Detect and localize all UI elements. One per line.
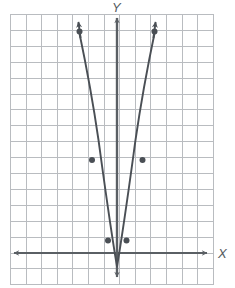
grid-horizontal-lines — [10, 15, 213, 285]
data-point — [105, 238, 111, 244]
grid-lines — [10, 14, 213, 285]
data-point — [124, 238, 130, 244]
data-point — [140, 157, 146, 163]
grid-vertical-lines — [11, 14, 214, 285]
coordinate-plane-svg: X Y — [0, 0, 235, 288]
data-point — [152, 29, 158, 35]
y-axis-label: Y — [112, 0, 122, 15]
graph-figure: X Y — [0, 0, 235, 288]
data-point — [89, 157, 95, 163]
x-axis-label: X — [217, 246, 228, 261]
data-point — [77, 29, 83, 35]
